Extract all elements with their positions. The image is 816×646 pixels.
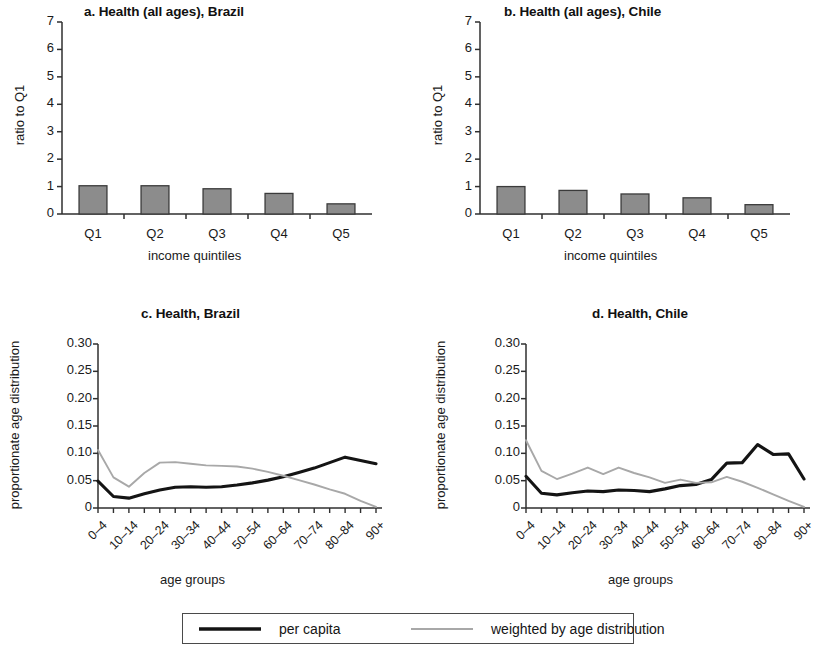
- y-tick-label: 0: [478, 499, 520, 514]
- x-tick-label-Q5: Q5: [327, 226, 355, 241]
- x-tick-label-Q3: Q3: [621, 226, 649, 241]
- bar-Q2: [141, 186, 169, 214]
- y-tick-label: 0.20: [478, 390, 520, 405]
- y-tick-label: 2: [22, 150, 54, 165]
- legend-label-weighted: weighted by age distribution: [491, 621, 665, 637]
- y-tick-label: 3: [22, 123, 54, 138]
- y-tick-label: 6: [22, 40, 54, 55]
- bar-Q5: [745, 205, 773, 214]
- bar-Q3: [621, 194, 649, 214]
- panel-b-title: b. Health (all ages), Chile: [504, 4, 661, 19]
- panel-a-title: a. Health (all ages), Brazil: [84, 4, 244, 19]
- y-tick-label: 0: [440, 205, 472, 220]
- y-tick-label: 0.10: [50, 444, 92, 459]
- x-tick-label-Q5: Q5: [745, 226, 773, 241]
- y-tick-label: 0.15: [478, 417, 520, 432]
- x-tick-label-Q1: Q1: [79, 226, 107, 241]
- y-tick-label: 4: [22, 95, 54, 110]
- x-tick-label-Q4: Q4: [265, 226, 293, 241]
- bar-Q1: [79, 186, 107, 214]
- panel-d: d. Health, Chile proportionate age distr…: [408, 300, 816, 600]
- x-tick-label-Q2: Q2: [141, 226, 169, 241]
- panel-a: a. Health (all ages), Brazil ratio to Q1…: [0, 0, 408, 290]
- panel-c-title: c. Health, Brazil: [141, 306, 240, 321]
- panel-d-y-axis-title: proportionate age distribution: [434, 335, 449, 515]
- y-tick-label: 7: [22, 13, 54, 28]
- panel-c: c. Health, Brazil proportionate age dist…: [0, 300, 408, 600]
- series-line-weighted: [526, 440, 804, 507]
- y-tick-label: 5: [22, 68, 54, 83]
- y-tick-label: 4: [440, 95, 472, 110]
- panel-a-x-axis-title: income quintiles: [148, 248, 241, 263]
- panel-b: b. Health (all ages), Chile ratio to Q1 …: [408, 0, 816, 290]
- panel-c-x-axis-title: age groups: [160, 572, 225, 587]
- figure-root: a. Health (all ages), Brazil ratio to Q1…: [0, 0, 816, 646]
- y-tick-label: 0.05: [50, 472, 92, 487]
- series-line-weighted: [98, 450, 376, 507]
- y-tick-label: 0: [22, 205, 54, 220]
- y-tick-label: 5: [440, 68, 472, 83]
- legend: per capita weighted by age distribution: [182, 613, 634, 644]
- bar-Q4: [683, 198, 711, 214]
- x-tick-label-Q3: Q3: [203, 226, 231, 241]
- x-tick-label-Q2: Q2: [559, 226, 587, 241]
- y-tick-label: 0.10: [478, 444, 520, 459]
- y-tick-label: 0.05: [478, 472, 520, 487]
- y-tick-label: 0.30: [478, 335, 520, 350]
- y-tick-label: 3: [440, 123, 472, 138]
- y-tick-label: 0.25: [478, 362, 520, 377]
- panel-d-x-axis-title: age groups: [608, 572, 673, 587]
- legend-label-per-capita: per capita: [279, 621, 340, 637]
- y-tick-label: 7: [440, 13, 472, 28]
- y-tick-label: 1: [440, 178, 472, 193]
- panel-c-y-axis-title: proportionate age distribution: [8, 335, 23, 515]
- panel-b-x-axis-title: income quintiles: [564, 248, 657, 263]
- y-tick-label: 0.30: [50, 335, 92, 350]
- panel-d-title: d. Health, Chile: [592, 306, 688, 321]
- panel-a-plot: [0, 0, 408, 290]
- bar-Q2: [559, 190, 587, 214]
- y-tick-label: 0.15: [50, 417, 92, 432]
- y-tick-label: 6: [440, 40, 472, 55]
- x-tick-label-Q4: Q4: [683, 226, 711, 241]
- bar-Q5: [327, 204, 355, 214]
- bar-Q4: [265, 193, 293, 214]
- y-tick-label: 2: [440, 150, 472, 165]
- y-tick-label: 0.25: [50, 362, 92, 377]
- bar-Q3: [203, 189, 231, 214]
- series-line-per-capita: [526, 445, 804, 495]
- y-tick-label: 0.20: [50, 390, 92, 405]
- y-tick-label: 0: [50, 499, 92, 514]
- y-tick-label: 1: [22, 178, 54, 193]
- bar-Q1: [497, 187, 525, 214]
- x-tick-label-Q1: Q1: [497, 226, 525, 241]
